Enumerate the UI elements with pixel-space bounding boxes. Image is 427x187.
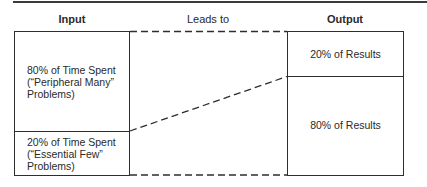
- input-peripheral-many-cell: 80% of Time Spent (“Peripheral Many” Pro…: [15, 32, 129, 132]
- input-top-line-3: Problems): [27, 88, 116, 100]
- input-box: 80% of Time Spent (“Peripheral Many” Pro…: [14, 31, 130, 176]
- input-bottom-text: 20% of Time Spent (“Essential Few” Probl…: [27, 136, 116, 172]
- output-top-label: 20% of Results: [288, 48, 403, 60]
- output-box: 20% of Results 80% of Results: [287, 31, 404, 176]
- input-bottom-line-3: Problems): [27, 160, 116, 172]
- output-top-cell: 20% of Results: [288, 32, 403, 77]
- output-bottom-label: 80% of Results: [288, 119, 403, 131]
- input-top-line-2: (“Peripheral Many”: [27, 76, 116, 88]
- input-bottom-line-2: (“Essential Few”: [27, 148, 116, 160]
- output-bottom-cell: 80% of Results: [288, 76, 403, 175]
- input-top-text: 80% of Time Spent (“Peripheral Many” Pro…: [27, 64, 116, 100]
- divider-connector-line: [130, 77, 287, 132]
- input-top-line-1: 80% of Time Spent: [27, 64, 116, 76]
- input-bottom-line-1: 20% of Time Spent: [27, 136, 116, 148]
- input-essential-few-cell: 20% of Time Spent (“Essential Few” Probl…: [15, 131, 129, 175]
